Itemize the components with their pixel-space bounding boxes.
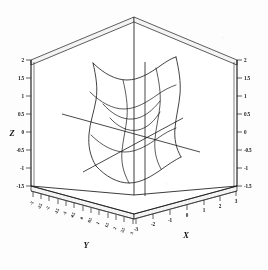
z-left-tick-label: -1 — [20, 165, 25, 171]
y-tick-label: 1 — [95, 221, 100, 225]
x-tick-label: 0 — [186, 212, 189, 218]
z-right-tick-label: 0.5 — [244, 111, 250, 117]
z-right-tick-label: -0.5 — [244, 147, 252, 153]
x-tick-label: -2 — [151, 221, 156, 227]
z-right-tick-label: 1.5 — [244, 75, 250, 81]
plot-box-frame — [31, 17, 237, 219]
z-right-tick-label: 1 — [244, 93, 247, 99]
y-tick-label: 0.5 — [86, 216, 93, 223]
z-left-tick-label: 2 — [22, 57, 25, 63]
figure-container: 2 1.5 1 0.5 0 -0.5 -1 -1.5 Z 2 1.5 1 0.5 — [0, 0, 268, 270]
z-left-tick-label: 0.5 — [18, 111, 24, 117]
z-left-tick-label: 1 — [22, 93, 25, 99]
x-tick-label: -1 — [168, 217, 173, 223]
z-right-tick-label: 2 — [244, 57, 247, 63]
y-tick-label: 0 — [79, 215, 85, 220]
x-tick-label: 2 — [219, 203, 222, 209]
z-left-tick-label: -0.5 — [17, 147, 25, 153]
z-right-tick-label: -1 — [244, 165, 249, 171]
x-axis-label: X — [182, 230, 189, 240]
z-right-tick-label: 0 — [244, 129, 247, 135]
x-tick-label: 1 — [203, 207, 206, 213]
surface-plot-canvas: 2 1.5 1 0.5 0 -0.5 -1 -1.5 Z 2 1.5 1 0.5 — [0, 0, 268, 270]
z-left-tick-label: -1.5 — [17, 183, 25, 189]
z-axis-left: 2 1.5 1 0.5 0 -0.5 -1 -1.5 Z — [8, 57, 31, 189]
y-tick-label: -0.5 — [69, 211, 77, 219]
y-tick-label: 2 — [112, 226, 117, 230]
z-right-tick-label: -1.5 — [244, 183, 252, 189]
y-tick-label: 2.5 — [119, 226, 126, 233]
z-axis-label: Z — [8, 128, 14, 138]
z-left-tick-label: 0 — [22, 129, 25, 135]
y-tick-label: -1 — [62, 211, 68, 216]
z-left-tick-label: 1.5 — [18, 75, 24, 81]
y-tick-label: 1.5 — [103, 221, 110, 228]
z-axis-right: 2 1.5 1 0.5 0 -0.5 -1 -1.5 — [237, 57, 252, 189]
y-axis-label: Y — [83, 240, 89, 250]
y-tick-label: -2 — [45, 206, 51, 211]
y-tick-label: -3 — [29, 200, 35, 206]
x-tick-label: 3 — [235, 198, 238, 204]
y-tick-label: -1.5 — [53, 207, 61, 215]
y-tick-label: -2.5 — [36, 202, 44, 210]
x-tick-label: -3 — [134, 226, 139, 232]
